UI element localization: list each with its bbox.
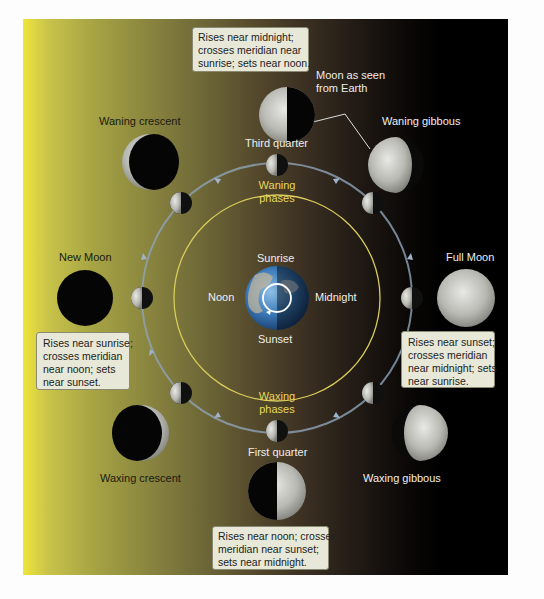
orbit-moon-full bbox=[401, 287, 423, 309]
label-waning-crescent: Waning crescent bbox=[99, 115, 181, 128]
full-moon-icon bbox=[437, 269, 495, 327]
new-moon-icon bbox=[57, 270, 113, 326]
label-waning-gibbous: Waning gibbous bbox=[382, 115, 460, 128]
orbit-moon-waxing-gibbous bbox=[362, 382, 384, 404]
label-sunset: Sunset bbox=[258, 333, 292, 346]
label-third-quarter: Third quarter bbox=[245, 137, 308, 150]
waning-crescent-icon bbox=[122, 134, 179, 190]
orbit-moon-third-quarter bbox=[266, 154, 288, 176]
label-waxing-gibbous: Waxing gibbous bbox=[363, 472, 441, 485]
waxing-crescent-icon bbox=[112, 405, 169, 461]
waxing-gibbous-icon bbox=[392, 405, 448, 461]
earth-icon bbox=[245, 266, 309, 330]
label-waxing-crescent: Waxing crescent bbox=[100, 472, 181, 485]
callout-new-moon: Rises near sunrise; crosses meridian nea… bbox=[36, 332, 130, 390]
orbit-moon-new bbox=[131, 287, 153, 309]
orbit-moon-waning-crescent bbox=[170, 192, 192, 214]
third-quarter-icon bbox=[259, 87, 315, 143]
orbit-moon-first-quarter bbox=[266, 420, 288, 442]
label-noon: Noon bbox=[208, 291, 234, 304]
first-quarter-icon bbox=[248, 462, 306, 520]
lunar-phase-diagram: Waning crescent Third quarter Waning gib… bbox=[23, 19, 508, 575]
callout-first-quarter: Rises near noon; crosses meridian near s… bbox=[212, 526, 329, 570]
waning-gibbous-icon bbox=[368, 137, 424, 193]
label-full-moon: Full Moon bbox=[446, 251, 494, 264]
orbit-graphics bbox=[23, 19, 508, 575]
label-waning-phases: Waning phases bbox=[255, 179, 299, 205]
label-waxing-phases: Waxing phases bbox=[255, 390, 299, 416]
label-first-quarter: First quarter bbox=[248, 446, 307, 459]
label-sunrise: Sunrise bbox=[257, 252, 294, 265]
callout-full-moon: Rises near sunset; crosses meridian near… bbox=[401, 331, 495, 388]
callout-third-quarter: Rises near midnight; crosses meridian ne… bbox=[192, 27, 309, 72]
label-midnight: Midnight bbox=[315, 291, 357, 304]
label-new-moon: New Moon bbox=[59, 251, 112, 264]
annotation-text: Moon as seen from Earth bbox=[316, 69, 385, 95]
orbit-moon-waxing-crescent bbox=[170, 382, 192, 404]
orbit-moon-waning-gibbous bbox=[362, 192, 384, 214]
